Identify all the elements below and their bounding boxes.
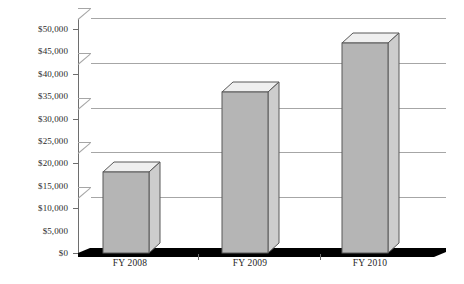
x-axis-tick-mark xyxy=(198,254,199,260)
y-axis-tick-label: $0 xyxy=(4,248,68,258)
gridline-connector xyxy=(78,8,91,20)
bar-chart: $0 $5,000 $10,000 $15,000 $20,000 $25,00… xyxy=(0,0,464,284)
gridline-connector xyxy=(78,187,91,199)
gridline-50000 xyxy=(91,18,446,19)
y-axis-tick-mark xyxy=(73,74,78,75)
y-axis-tick-label: $45,000 xyxy=(4,46,68,56)
y-axis-tick-mark xyxy=(73,208,78,209)
y-axis-tick-label: $35,000 xyxy=(4,91,68,101)
y-axis-tick-mark xyxy=(73,119,78,120)
x-axis-label-fy-2010: FY 2010 xyxy=(332,258,408,268)
x-axis-label-fy-2008: FY 2008 xyxy=(92,258,168,268)
y-axis-tick-label: $40,000 xyxy=(4,69,68,79)
y-axis-tick-mark xyxy=(73,29,78,30)
y-axis-tick-label: $50,000 xyxy=(4,24,68,34)
gridline-connector xyxy=(78,98,91,110)
x-axis-tick-mark xyxy=(320,254,321,260)
gridline-connector xyxy=(78,53,91,65)
y-axis-tick-mark xyxy=(73,163,78,164)
y-axis-tick-label: $15,000 xyxy=(4,181,68,191)
y-axis-tick-label: $20,000 xyxy=(4,158,68,168)
y-axis-tick-label: $5,000 xyxy=(4,226,68,236)
y-axis-tick-label: $30,000 xyxy=(4,114,68,124)
x-axis-label-fy-2009: FY 2009 xyxy=(212,258,288,268)
gridline-connector xyxy=(78,142,91,154)
y-axis-tick-label: $25,000 xyxy=(4,136,68,146)
y-axis-tick-label: $10,000 xyxy=(4,203,68,213)
